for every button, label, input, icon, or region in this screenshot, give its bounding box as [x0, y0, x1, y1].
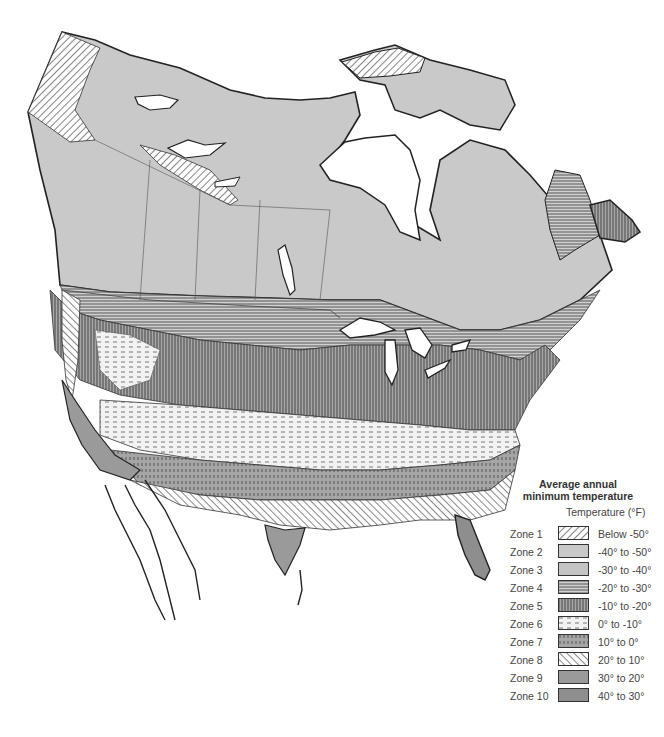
legend-row-zone-3: Zone 3 -30° to -40° — [500, 562, 664, 578]
legend-row-zone-10: Zone 10 40° to 30° — [500, 688, 664, 704]
legend-row-zone-2: Zone 2 -40° to -50° — [500, 544, 664, 560]
zone-range: -10° to -20° — [598, 600, 651, 612]
zone9-texas — [265, 525, 305, 575]
zone-5-swatch — [558, 598, 589, 612]
legend-title-line1: Average annual — [518, 478, 638, 490]
zone-label: Zone 8 — [510, 654, 543, 666]
zone-range: -20° to -30° — [598, 582, 651, 594]
zone-label: Zone 7 — [510, 636, 543, 648]
zone-label: Zone 2 — [510, 546, 543, 558]
zone-3-swatch — [558, 562, 589, 576]
zone-range: 0° to -10° — [598, 618, 642, 630]
zone-range: -30° to -40° — [598, 564, 651, 576]
zone-label: Zone 10 — [510, 690, 549, 702]
legend-row-zone-1: Zone 1 Below -50° — [500, 526, 664, 542]
zone-label: Zone 6 — [510, 618, 543, 630]
legend-row-zone-5: Zone 5 -10° to -20° — [500, 598, 664, 614]
legend-title-line2: minimum temperature — [518, 490, 638, 502]
zone-label: Zone 3 — [510, 564, 543, 576]
legend-row-zone-9: Zone 9 30° to 20° — [500, 670, 664, 686]
legend-unit-label: Temperature (°F) — [566, 506, 645, 518]
zone-range: Below -50° — [598, 528, 649, 540]
mexico-gulf-coast — [298, 570, 302, 605]
zone-label: Zone 4 — [510, 582, 543, 594]
legend-row-zone-6: Zone 6 0° to -10° — [500, 616, 664, 632]
zone-range: 10° to 0° — [598, 636, 639, 648]
zone-range: 30° to 20° — [598, 672, 644, 684]
zone-4-swatch — [558, 580, 589, 594]
zone-9-swatch — [558, 670, 589, 684]
zone-10-swatch — [558, 688, 589, 702]
zone-range: 40° to 30° — [598, 690, 644, 702]
zone-8-swatch — [558, 652, 589, 666]
zone-label: Zone 5 — [510, 600, 543, 612]
zone-range: 20° to 10° — [598, 654, 644, 666]
baja-california — [125, 485, 175, 620]
zone-7-swatch — [558, 634, 589, 648]
zone-6-swatch — [558, 616, 589, 630]
zone9-florida — [455, 515, 490, 580]
zone-label: Zone 9 — [510, 672, 543, 684]
legend-title: Average annual minimum temperature — [518, 478, 638, 502]
zone-label: Zone 1 — [510, 528, 543, 540]
zone-range: -40° to -50° — [598, 546, 651, 558]
legend-row-zone-4: Zone 4 -20° to -30° — [500, 580, 664, 596]
legend-row-zone-8: Zone 8 20° to 10° — [500, 652, 664, 668]
zone-1-swatch — [558, 526, 589, 540]
zone-2-swatch — [558, 544, 589, 558]
legend-row-zone-7: Zone 7 10° to 0° — [500, 634, 664, 650]
canada-landmass — [28, 32, 612, 330]
